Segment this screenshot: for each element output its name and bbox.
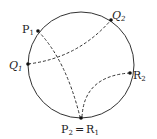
point-q1 [26, 62, 30, 66]
label-q1: Q1 [9, 59, 23, 73]
geodesic-r1-r2 [82, 73, 130, 117]
point-r2 [128, 71, 132, 75]
point-p2-r1 [79, 116, 83, 120]
boundary-circle [28, 12, 134, 118]
geodesic-q1-q2 [28, 20, 111, 64]
poincare-disk-diagram: P1 Q2 Q1 R2 P2=R1 [0, 0, 157, 139]
geodesic-p1-p2 [38, 31, 80, 117]
label-p2-equals-r1: P2=R1 [61, 123, 99, 137]
label-q2: Q2 [112, 9, 126, 23]
point-p1 [36, 29, 40, 33]
label-r2: R2 [133, 69, 146, 83]
label-p1: P1 [22, 23, 34, 37]
